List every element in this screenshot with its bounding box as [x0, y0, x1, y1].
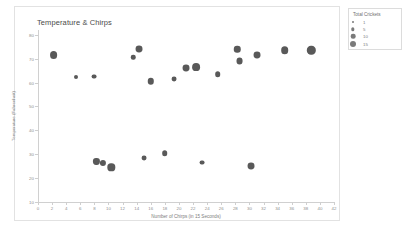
- y-axis-title: Temperature (Fahrenheit): [11, 91, 16, 141]
- chart-title: Temperature & Chirps: [37, 18, 112, 27]
- scatter-point[interactable]: [200, 160, 205, 165]
- x-tick-mark: [66, 202, 67, 205]
- x-axis-line: [38, 202, 334, 203]
- x-tick-mark: [165, 202, 166, 205]
- x-tick-label: 20: [176, 206, 181, 211]
- y-tick-label: 30: [26, 152, 34, 157]
- x-tick-mark: [221, 202, 222, 205]
- legend-swatch: [351, 34, 356, 39]
- scatter-point[interactable]: [50, 51, 58, 59]
- y-tick-label: 10: [26, 200, 34, 205]
- x-tick-mark: [151, 202, 152, 205]
- x-tick-label: 36: [289, 206, 294, 211]
- x-tick-mark: [123, 202, 124, 205]
- y-tick-mark: [35, 178, 38, 179]
- y-tick-mark: [35, 83, 38, 84]
- x-tick-label: 16: [148, 206, 153, 211]
- x-tick-mark: [52, 202, 53, 205]
- x-axis-title: Number of Chirps (in 15 Seconds): [151, 214, 220, 219]
- x-tick-label: 2: [51, 206, 53, 211]
- x-tick-mark: [235, 202, 236, 205]
- x-tick-mark: [179, 202, 180, 205]
- legend-title: Total Crickets: [353, 12, 381, 17]
- y-tick-label: 20: [26, 176, 34, 181]
- x-tick-label: 42: [332, 206, 337, 211]
- x-tick-label: 0: [37, 206, 39, 211]
- x-tick-label: 30: [247, 206, 252, 211]
- x-tick-label: 10: [106, 206, 111, 211]
- x-tick-mark: [137, 202, 138, 205]
- x-tick-mark: [320, 202, 321, 205]
- x-tick-label: 6: [79, 206, 81, 211]
- x-tick-label: 4: [65, 206, 67, 211]
- y-tick-label: 40: [26, 128, 34, 133]
- scatter-point[interactable]: [136, 46, 143, 53]
- scatter-point[interactable]: [254, 52, 261, 59]
- legend-swatch: [352, 21, 354, 23]
- scatter-point[interactable]: [91, 74, 96, 79]
- x-tick-mark: [334, 202, 335, 205]
- legend-swatch: [350, 41, 356, 47]
- x-tick-label: 32: [261, 206, 266, 211]
- y-tick-mark: [35, 130, 38, 131]
- x-tick-mark: [278, 202, 279, 205]
- legend-label: 1: [363, 20, 365, 25]
- x-tick-mark: [38, 202, 39, 205]
- scatter-point[interactable]: [247, 163, 254, 170]
- scatter-point[interactable]: [281, 47, 289, 55]
- scatter-point[interactable]: [236, 58, 243, 65]
- x-tick-label: 34: [275, 206, 280, 211]
- legend-label: 5: [363, 27, 365, 32]
- x-tick-mark: [94, 202, 95, 205]
- y-tick-label: 70: [26, 56, 34, 61]
- chart-canvas: Temperature & Chirps 0246810121416182022…: [0, 0, 416, 238]
- y-tick-label: 80: [26, 32, 34, 37]
- x-tick-label: 24: [205, 206, 210, 211]
- x-tick-mark: [80, 202, 81, 205]
- x-tick-label: 40: [317, 206, 322, 211]
- x-tick-label: 12: [120, 206, 125, 211]
- x-tick-label: 28: [233, 206, 238, 211]
- scatter-point[interactable]: [74, 75, 78, 79]
- x-tick-label: 38: [303, 206, 308, 211]
- y-tick-label: 50: [26, 104, 34, 109]
- x-tick-label: 26: [219, 206, 224, 211]
- y-tick-mark: [35, 106, 38, 107]
- x-tick-mark: [249, 202, 250, 205]
- y-tick-mark: [35, 154, 38, 155]
- x-tick-mark: [207, 202, 208, 205]
- chart-card: Temperature & Chirps: [14, 6, 340, 221]
- legend-swatch: [351, 27, 354, 30]
- y-tick-mark: [35, 59, 38, 60]
- scatter-point[interactable]: [142, 155, 147, 160]
- scatter-point[interactable]: [215, 71, 221, 77]
- y-axis-line: [38, 30, 39, 202]
- x-tick-mark: [306, 202, 307, 205]
- y-tick-label: 60: [26, 80, 34, 85]
- x-tick-mark: [193, 202, 194, 205]
- y-tick-mark: [35, 35, 38, 36]
- x-tick-label: 8: [93, 206, 95, 211]
- scatter-point[interactable]: [183, 65, 190, 72]
- scatter-point[interactable]: [162, 150, 168, 156]
- legend-label: 10: [363, 34, 368, 39]
- x-tick-mark: [108, 202, 109, 205]
- scatter-point[interactable]: [192, 63, 200, 71]
- x-tick-label: 22: [191, 206, 196, 211]
- x-tick-label: 18: [162, 206, 167, 211]
- y-tick-mark: [35, 202, 38, 203]
- x-tick-mark: [264, 202, 265, 205]
- legend-label: 15: [363, 41, 368, 46]
- size-legend: Total Crickets 151015: [348, 8, 402, 50]
- x-tick-mark: [292, 202, 293, 205]
- scatter-point[interactable]: [172, 77, 177, 82]
- x-tick-label: 14: [134, 206, 139, 211]
